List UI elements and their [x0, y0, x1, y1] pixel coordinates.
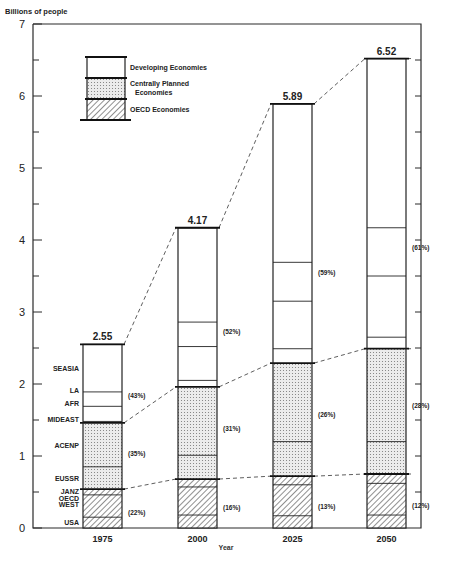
developing-segment	[273, 104, 312, 363]
percent-label: (31%)	[223, 425, 240, 433]
y-tick-label: 6	[19, 90, 25, 102]
oecd-segment	[178, 479, 217, 528]
percent-label: (26%)	[318, 411, 335, 419]
developing-segment	[178, 228, 217, 387]
stacked-bar-chart: Billions of people Year 01234567 2.55197…	[0, 0, 454, 561]
cpe-segment	[273, 363, 312, 476]
percent-label: (13%)	[318, 503, 335, 511]
percent-label: (12%)	[412, 502, 429, 510]
percent-label: (16%)	[223, 504, 240, 512]
bar-2050: 6.522050(12%)(28%)(61%)	[364, 46, 429, 544]
legend-entry: Economies	[135, 89, 172, 96]
percent-label: (22%)	[128, 509, 145, 517]
region-label-usa: USA	[64, 519, 79, 526]
region-label-seasia: SEASIA	[53, 365, 79, 372]
y-tick-label: 1	[19, 450, 25, 462]
bar-1975: 2.551975(22%)(35%)(43%)	[80, 331, 145, 544]
y-axis: 01234567	[19, 18, 421, 534]
total-label: 5.89	[283, 91, 303, 102]
x-tick-label: 2000	[187, 534, 207, 544]
percent-label: (28%)	[412, 402, 429, 410]
percent-label: (61%)	[412, 244, 429, 252]
region-label-mideast: MIDEAST	[48, 416, 80, 423]
y-tick-label: 3	[19, 306, 25, 318]
total-label: 6.52	[377, 46, 397, 57]
total-label: 4.17	[188, 215, 208, 226]
y-tick-label: 2	[19, 378, 25, 390]
region-label-west: WEST	[59, 501, 80, 508]
y-tick-label: 0	[19, 522, 25, 534]
bar-2025: 5.892025(13%)(26%)(59%)	[270, 91, 335, 544]
developing-segment	[367, 59, 406, 349]
y-axis-title: Billions of people	[5, 7, 68, 16]
region-label-janz: JANZ	[61, 488, 80, 495]
cpe-segment	[367, 349, 406, 474]
total-label: 2.55	[93, 331, 113, 342]
percent-label: (59%)	[318, 269, 335, 277]
region-labels: USAWESTOECDJANZEUSSRACENPMIDEASTAFRLASEA…	[48, 365, 80, 526]
y-tick-label: 5	[19, 162, 25, 174]
cpe-segment	[178, 387, 217, 479]
bar-2000: 4.172000(16%)(31%)(52%)	[175, 215, 240, 544]
x-tick-label: 2025	[282, 534, 302, 544]
oecd-segment	[367, 474, 406, 528]
x-tick-label: 2050	[376, 534, 396, 544]
percent-label: (43%)	[128, 392, 145, 400]
region-label-la: LA	[70, 387, 79, 394]
population-chart: Billions of people Year 01234567 2.55197…	[0, 0, 454, 561]
legend-entry: Centrally Planned	[130, 80, 189, 88]
x-tick-label: 1975	[92, 534, 112, 544]
legend-entry: OECD Economies	[130, 106, 190, 113]
percent-label: (35%)	[128, 450, 145, 458]
legend: Developing EconomiesCentrally PlannedEco…	[80, 57, 207, 120]
x-axis-title: Year	[219, 544, 234, 551]
oecd-segment	[273, 476, 312, 528]
region-label-oecd: OECD	[59, 495, 79, 502]
region-label-eussr: EUSSR	[55, 475, 79, 482]
region-label-acenp: ACENP	[54, 442, 79, 449]
region-label-afr: AFR	[65, 400, 79, 407]
developing-segment	[83, 344, 122, 422]
legend-entry: Developing Economies	[130, 64, 207, 72]
cpe-segment	[83, 423, 122, 489]
y-tick-label: 7	[19, 18, 25, 30]
bars: 2.551975(22%)(35%)(43%)4.172000(16%)(31%…	[80, 46, 429, 544]
percent-label: (52%)	[223, 328, 240, 336]
y-tick-label: 4	[19, 234, 25, 246]
